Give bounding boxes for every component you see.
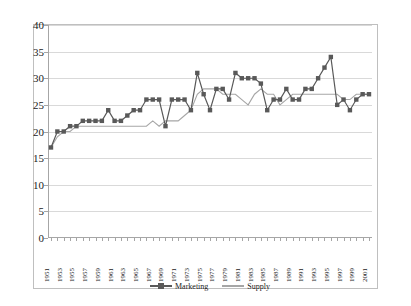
- marketing-data-point: [329, 55, 333, 59]
- marketing-data-point: [265, 108, 269, 112]
- y-axis-tick-label: 25: [33, 99, 44, 110]
- marketing-data-point: [138, 108, 142, 112]
- marketing-data-point: [144, 97, 148, 101]
- marketing-data-point: [55, 129, 59, 133]
- y-axis-tick-label: 15: [33, 153, 44, 164]
- marketing-data-point: [62, 129, 66, 133]
- y-axis-tick-label: 35: [33, 46, 44, 57]
- marketing-data-point: [49, 145, 53, 149]
- marketing-data-point: [163, 124, 167, 128]
- marketing-data-point: [271, 97, 275, 101]
- supply-series-line: [51, 89, 369, 148]
- y-axis-tick-label: 20: [33, 126, 44, 137]
- marketing-data-point: [259, 81, 263, 85]
- marketing-data-point: [131, 108, 135, 112]
- marketing-data-point: [322, 65, 326, 69]
- marketing-legend-swatch-icon: [150, 282, 172, 290]
- marketing-data-point: [221, 87, 225, 91]
- chart-legend: Marketing Supply: [48, 279, 372, 293]
- x-axis-labels: 1951195319551957195919611963196519671969…: [48, 241, 372, 275]
- chart-container: 0510152025303540 19511953195519571959196…: [0, 0, 411, 306]
- marketing-data-point: [119, 119, 123, 123]
- series-layer: [48, 25, 372, 238]
- marketing-data-point: [227, 97, 231, 101]
- marketing-data-point: [81, 119, 85, 123]
- marketing-data-point: [284, 87, 288, 91]
- marketing-data-point: [316, 76, 320, 80]
- marketing-data-point: [297, 97, 301, 101]
- marketing-data-point: [170, 97, 174, 101]
- marketing-data-point: [125, 113, 129, 117]
- marketing-data-point: [157, 97, 161, 101]
- marketing-data-point: [68, 124, 72, 128]
- marketing-data-point: [348, 108, 352, 112]
- marketing-data-point: [176, 97, 180, 101]
- marketing-data-point: [360, 92, 364, 96]
- y-axis-tick-label: 40: [33, 20, 44, 31]
- marketing-data-point: [182, 97, 186, 101]
- marketing-series-markers: [49, 55, 371, 150]
- legend-item-marketing: Marketing: [150, 282, 208, 291]
- supply-legend-swatch-icon: [222, 282, 244, 290]
- y-axis-tick-label: 30: [33, 73, 44, 84]
- marketing-data-point: [240, 76, 244, 80]
- legend-item-supply: Supply: [222, 282, 270, 291]
- marketing-data-point: [87, 119, 91, 123]
- marketing-data-point: [100, 119, 104, 123]
- marketing-data-point: [354, 97, 358, 101]
- marketing-data-point: [201, 92, 205, 96]
- marketing-data-point: [290, 97, 294, 101]
- marketing-data-point: [303, 87, 307, 91]
- y-axis-tick-label: 10: [33, 179, 44, 190]
- marketing-series-line: [51, 57, 369, 148]
- legend-label-marketing: Marketing: [175, 282, 208, 291]
- marketing-data-point: [214, 87, 218, 91]
- marketing-data-point: [74, 124, 78, 128]
- marketing-data-point: [335, 103, 339, 107]
- plot-area: [48, 25, 372, 238]
- marketing-data-point: [278, 97, 282, 101]
- marketing-data-point: [233, 71, 237, 75]
- marketing-data-point: [252, 76, 256, 80]
- marketing-data-point: [189, 108, 193, 112]
- marketing-data-point: [367, 92, 371, 96]
- marketing-data-point: [112, 119, 116, 123]
- marketing-data-point: [246, 76, 250, 80]
- marketing-data-point: [341, 97, 345, 101]
- marketing-data-point: [106, 108, 110, 112]
- marketing-data-point: [208, 108, 212, 112]
- marketing-data-point: [195, 71, 199, 75]
- marketing-data-point: [151, 97, 155, 101]
- marketing-data-point: [310, 87, 314, 91]
- y-axis-labels: 0510152025303540: [0, 25, 44, 238]
- legend-label-supply: Supply: [247, 282, 270, 291]
- y-axis-tick: [44, 238, 48, 239]
- marketing-data-point: [93, 119, 97, 123]
